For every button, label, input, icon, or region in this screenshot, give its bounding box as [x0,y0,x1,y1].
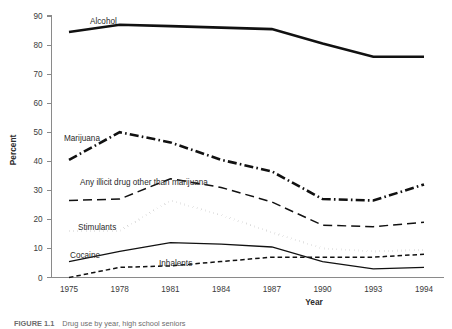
x-tick-label: 1993 [364,285,383,294]
x-tick-label: 1975 [60,285,79,294]
y-tick-label: 20 [33,215,43,224]
x-axis-ticks: 19751978198119841987199019931994 [60,285,434,294]
x-axis-title: Year [305,297,323,307]
y-tick-label: 30 [33,186,43,195]
x-tick-label: 1990 [313,285,332,294]
x-tick-label: 1987 [263,285,282,294]
y-tick-label: 70 [33,70,43,79]
series-line-alcohol [69,25,424,57]
series-line-cocaine [69,243,424,269]
axis-group [52,16,445,278]
drug-use-line-chart: 0102030405060708090 19751978198119841987… [0,0,452,329]
series-label-inhalents: Inhalents [159,259,192,268]
series-line-inhalents [69,254,424,277]
y-tick-label: 90 [33,12,43,21]
series-label-marijuana: Marijuana [64,134,100,143]
figure-caption: FIGURE 1.1 Drug use by year, high school… [14,319,186,328]
y-tick-label: 10 [33,244,43,253]
figure-caption-number: FIGURE 1.1 [14,319,54,328]
y-tick-label: 50 [33,128,43,137]
x-tick-label: 1984 [212,285,231,294]
series-group [69,25,424,278]
x-tick-label: 1978 [111,285,130,294]
series-label-alcohol: Alcohol [90,17,117,26]
y-tick-label: 40 [33,157,43,166]
figure-caption-text: Drug use by year, high school seniors [62,319,186,328]
y-axis-ticks: 0102030405060708090 [33,12,51,283]
series-label-cocaine: Cocaine [70,251,100,260]
x-tick-label: 1981 [161,285,180,294]
y-tick-label: 80 [33,41,43,50]
series-label-stimulants: Stimulants [78,223,116,232]
x-tick-label: 1994 [415,285,434,294]
y-axis-title: Percent [8,134,18,165]
y-tick-label: 0 [38,274,43,283]
series-line-marijuana [69,132,424,200]
figure-container: 0102030405060708090 19751978198119841987… [0,0,452,329]
series-label-illicit: Any illicit drug other than marijuana [80,178,208,187]
y-tick-label: 60 [33,99,43,108]
